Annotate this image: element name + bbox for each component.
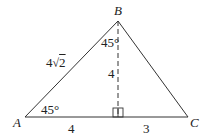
- segment-foot-c-label: 3: [143, 122, 150, 135]
- triangle-diagram: A B C 4√2 45° 4 45° 4 3: [0, 0, 209, 137]
- triangle-figure: [0, 0, 209, 137]
- vertex-label-a: A: [13, 116, 21, 129]
- angle-b-label: 45°: [101, 36, 119, 49]
- altitude-length-label: 4: [108, 67, 115, 80]
- vertex-label-c: C: [190, 116, 199, 129]
- angle-a-label: 45°: [41, 103, 59, 116]
- side-ab-length: 4√2: [46, 56, 66, 69]
- vertex-label-b: B: [114, 4, 122, 17]
- side-ab-radicand: 2: [59, 55, 66, 70]
- segment-a-foot-label: 4: [68, 122, 75, 135]
